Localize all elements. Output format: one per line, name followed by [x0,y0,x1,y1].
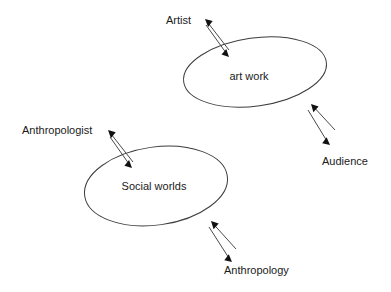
connector-audience[interactable] [308,104,335,145]
node-social-worlds[interactable]: Social worlds [79,137,232,234]
label-audience: Audience [322,155,368,167]
anthropology-outward-line [209,227,229,258]
artist-inward-line [206,25,226,53]
art-work-label: art work [229,70,269,82]
audience-outward-arrowhead [322,137,330,145]
diagram-svg: art work Social worlds [0,0,391,292]
anthropologist-inward-arrowhead [124,160,132,168]
label-anthropology: Anthropology [224,264,289,276]
diagram-canvas: art work Social worlds [0,0,391,292]
anthropology-outward-arrowhead [224,254,232,262]
artist-inward-arrowhead [222,49,230,57]
label-anthropologist: Anthropologist [22,124,92,136]
anthropology-inward-line [215,225,236,249]
connector-anthropologist[interactable] [108,130,133,168]
social-worlds-label: Social worlds [122,180,187,192]
anthropologist-inward-line [110,137,129,164]
connector-anthropology[interactable] [209,221,236,262]
node-art-work[interactable]: art work [179,28,331,115]
anthropologist-outward-arrowhead [108,130,116,138]
audience-outward-line [308,110,327,141]
label-artist: Artist [166,14,191,26]
